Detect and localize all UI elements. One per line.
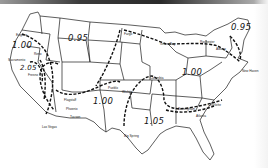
isoline-value-label: 0.95 <box>231 22 251 32</box>
us-map-outline <box>0 0 268 168</box>
city-label: Sacramento <box>8 58 25 62</box>
city-label: Flagstaff <box>64 98 76 102</box>
isoline-value-label: 1.00 <box>182 67 202 77</box>
isoline-ring <box>40 63 58 111</box>
right-edge-fade <box>254 0 268 168</box>
city-label: Tucson <box>70 115 80 119</box>
isoline-north <box>96 30 120 86</box>
city-label: Las Vegas <box>42 125 57 129</box>
city-label: Albany <box>216 47 226 51</box>
city-label: Columbia <box>150 76 163 80</box>
city-label: Charlotte <box>208 103 221 107</box>
city-label: Fresno <box>28 73 38 77</box>
city-label: Fargo <box>124 32 132 36</box>
isoline-value-label: 0.95 <box>68 33 88 43</box>
city-label: Phoenix <box>66 107 78 111</box>
isoline-value-label: 2.05 <box>20 64 37 72</box>
city-label: Big Spring <box>124 134 139 138</box>
city-label: Birmingham <box>178 107 195 111</box>
isoline-value-label: 1.00 <box>12 40 32 50</box>
city-label: Wichita <box>122 90 132 94</box>
city-label: New Haven <box>242 69 258 73</box>
isoline-plains <box>124 76 222 126</box>
isoline-value-label: 1.05 <box>144 116 164 126</box>
isoline-value-label: 1.00 <box>93 96 113 106</box>
city-label: Rochester <box>200 40 215 44</box>
city-label: Reno <box>34 52 42 56</box>
city-label: Eugene <box>16 33 27 37</box>
city-label: Atlanta <box>196 114 206 118</box>
city-label: Green Bay <box>160 42 175 46</box>
city-label: Pueblo <box>108 86 118 90</box>
